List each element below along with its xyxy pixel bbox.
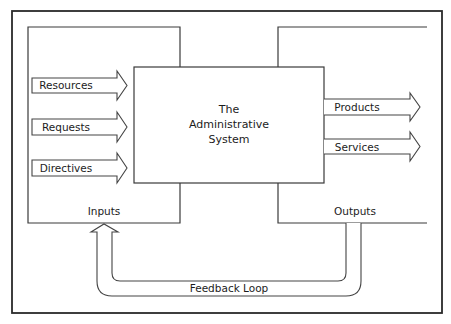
requests-label: Requests xyxy=(42,121,90,133)
outputs-box-bottom xyxy=(278,183,427,223)
diagram-canvas: Resources Requests Directives Products S… xyxy=(0,0,451,324)
outputs-label: Outputs xyxy=(334,205,376,217)
products-label: Products xyxy=(334,101,379,113)
directives-label: Directives xyxy=(40,162,93,174)
resources-label: Resources xyxy=(39,79,93,91)
outputs-box-top xyxy=(278,27,427,67)
center-line-2: Administrative xyxy=(189,118,269,131)
feedback-loop-label: Feedback Loop xyxy=(190,282,269,294)
services-label: Services xyxy=(335,141,379,153)
center-line-3: System xyxy=(208,133,249,146)
inputs-label: Inputs xyxy=(88,205,121,217)
center-line-1: The xyxy=(218,103,240,116)
diagram-svg: Resources Requests Directives Products S… xyxy=(0,0,451,324)
